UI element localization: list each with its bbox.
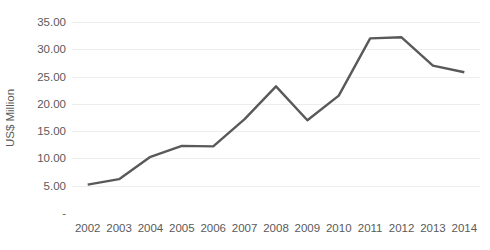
x-axis-tick: 2010	[326, 222, 352, 234]
x-axis-tick: 2009	[295, 222, 321, 234]
x-axis-tick: 2005	[169, 222, 195, 234]
x-axis-tick: 2004	[138, 222, 164, 234]
y-axis-tick: 20.00	[37, 98, 66, 110]
x-axis-tick: 2006	[200, 222, 226, 234]
plot-area	[72, 22, 480, 213]
y-axis-tick: 15.00	[37, 125, 66, 137]
line-chart: US$ Million -5.0010.0015.0020.0025.0030.…	[0, 0, 490, 250]
x-axis-tick: 2011	[358, 222, 383, 234]
y-axis-title-label: US$ Million	[4, 89, 16, 147]
series-line-us-dollar-million	[88, 37, 465, 184]
y-axis-tick: 25.00	[37, 71, 66, 83]
x-axis-tick: 2008	[263, 222, 289, 234]
y-axis-tick: 5.00	[44, 180, 66, 192]
x-axis-tick: 2003	[106, 222, 132, 234]
x-axis-tick: 2007	[232, 222, 258, 234]
y-axis-tick: 10.00	[37, 152, 66, 164]
x-axis-tick: 2012	[389, 222, 415, 234]
y-axis-tick: -	[62, 207, 66, 219]
x-axis-tick: 2013	[420, 222, 446, 234]
x-axis-tick: 2014	[452, 222, 478, 234]
x-axis-tick: 2002	[75, 222, 101, 234]
data-series-svg	[72, 22, 480, 213]
y-axis-tick: 35.00	[37, 16, 66, 28]
x-axis-tick-labels: 2002200320042005200620072008200920102011…	[72, 222, 480, 242]
y-axis-title: US$ Million	[2, 18, 18, 218]
y-axis-tick-labels: -5.0010.0015.0020.0025.0030.0035.00	[18, 0, 70, 250]
y-axis-tick: 30.00	[37, 43, 66, 55]
